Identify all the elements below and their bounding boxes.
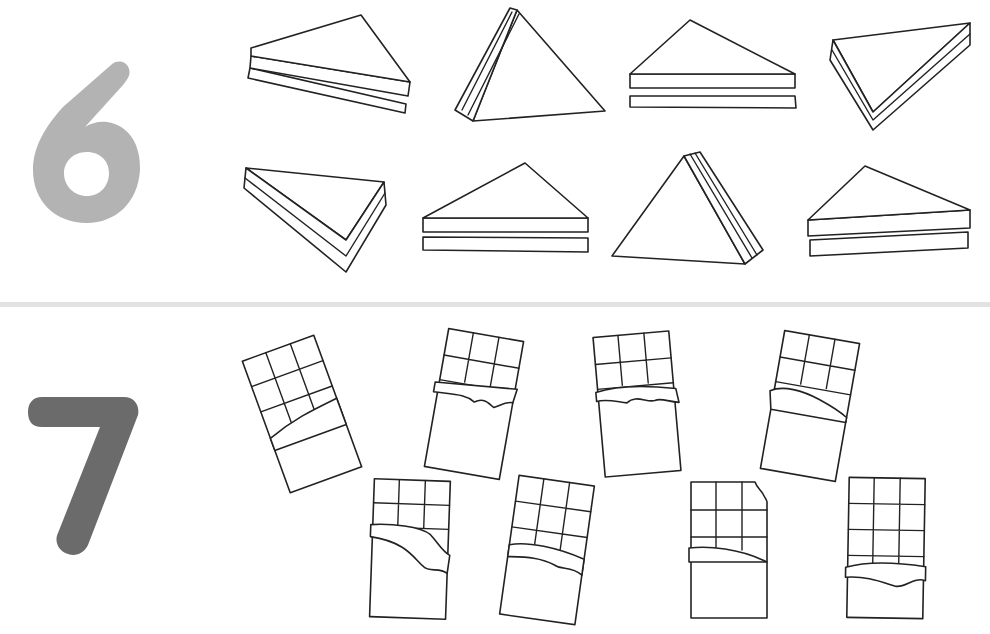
chocolate-bar-icon [756,330,859,482]
chocolate-bar-icon [845,477,927,618]
chocolate-bar-icon [591,331,685,478]
chocolate-bar-icon [500,475,595,624]
chocolate-bar-icon [242,335,361,493]
chocolate-bar-icon [420,328,525,480]
chocolate-bar-icon [689,482,767,618]
chocolate-bar-icon [368,479,453,620]
chocolate-group [0,0,990,634]
